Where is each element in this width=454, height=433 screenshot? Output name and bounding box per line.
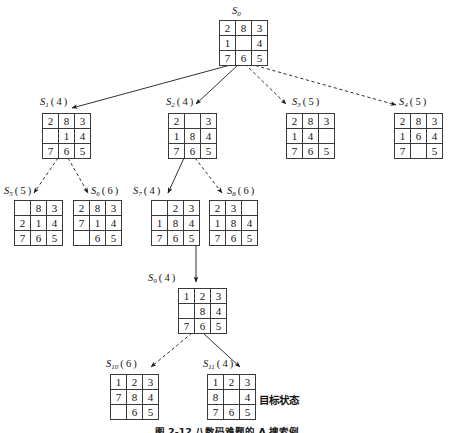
puzzle-cell: 3: [184, 201, 200, 216]
puzzle-grid: 83214765: [14, 200, 63, 246]
puzzle-node-s7[interactable]: 23184765: [151, 200, 200, 246]
puzzle-cell: 8: [31, 201, 47, 216]
puzzle-cell: 6: [127, 405, 143, 420]
puzzle-node-s6[interactable]: 28371465: [73, 200, 122, 246]
puzzle-row: 765: [43, 144, 91, 159]
puzzle-cell: 6: [195, 319, 211, 334]
puzzle-node-s9[interactable]: 12384765: [178, 288, 227, 334]
puzzle-cell: 3: [252, 21, 268, 36]
puzzle-cell: 7: [208, 405, 224, 420]
puzzle-cell: 7: [169, 144, 185, 159]
puzzle-cell: 3: [47, 201, 63, 216]
puzzle-node-s10[interactable]: 12378465: [110, 374, 159, 420]
puzzle-row: 84: [179, 304, 227, 319]
puzzle-node-s2[interactable]: 23184765: [168, 113, 217, 159]
puzzle-cell: 7: [74, 216, 90, 231]
puzzle-node-s3[interactable]: 28314765: [286, 113, 335, 159]
puzzle-cell: 7: [210, 231, 226, 246]
puzzle-cell: 7: [152, 231, 168, 246]
puzzle-cell: [236, 36, 252, 51]
puzzle-row: 23: [210, 201, 258, 216]
puzzle-cell: [15, 201, 31, 216]
puzzle-cell: 6: [226, 231, 242, 246]
puzzle-cell: 8: [168, 216, 184, 231]
puzzle-cell: 2: [168, 201, 184, 216]
puzzle-cell: 1: [287, 129, 303, 144]
puzzle-row: 283: [395, 114, 443, 129]
puzzle-cell: 6: [59, 144, 75, 159]
puzzle-cell: 1: [152, 216, 168, 231]
puzzle-row: 65: [111, 405, 159, 420]
puzzle-cell: 5: [143, 405, 159, 420]
node-label-s4: S4 ( 5 ): [399, 97, 426, 109]
edge-s1-to-s5: [34, 158, 58, 193]
node-label-s6: S6 ( 6 ): [91, 186, 118, 198]
puzzle-node-s11[interactable]: 12384765: [207, 374, 256, 420]
puzzle-cell: 5: [427, 144, 443, 159]
puzzle-cell: 4: [211, 304, 227, 319]
puzzle-row: 123: [179, 289, 227, 304]
puzzle-node-s8[interactable]: 23184765: [209, 200, 258, 246]
puzzle-cell: 4: [242, 216, 258, 231]
puzzle-row: 123: [208, 375, 256, 390]
puzzle-cell: 8: [127, 390, 143, 405]
puzzle-row: 75: [395, 144, 443, 159]
edge-s1-to-s6: [68, 158, 88, 193]
puzzle-cell: 2: [224, 375, 240, 390]
puzzle-cell: 5: [211, 319, 227, 334]
puzzle-cell: 8: [303, 114, 319, 129]
puzzle-cell: 6: [185, 144, 201, 159]
node-label-s11: S11 ( 4 ): [203, 359, 233, 371]
puzzle-grid: 28316475: [394, 113, 443, 159]
puzzle-cell: 4: [201, 129, 217, 144]
puzzle-row: 765: [152, 231, 200, 246]
puzzle-grid: 28314765: [219, 20, 268, 66]
puzzle-cell: [185, 114, 201, 129]
puzzle-row: 14: [43, 129, 91, 144]
puzzle-cell: 6: [411, 129, 427, 144]
puzzle-cell: 6: [31, 231, 47, 246]
puzzle-cell: [224, 390, 240, 405]
puzzle-row: 164: [395, 129, 443, 144]
puzzle-cell: 1: [210, 216, 226, 231]
puzzle-node-s0[interactable]: 28314765: [219, 20, 268, 66]
puzzle-grid: 12384765: [207, 374, 256, 420]
puzzle-node-s5[interactable]: 83214765: [14, 200, 63, 246]
puzzle-cell: 4: [252, 36, 268, 51]
puzzle-cell: [43, 129, 59, 144]
puzzle-cell: 4: [143, 390, 159, 405]
puzzle-cell: 5: [319, 144, 335, 159]
puzzle-grid: 23184765: [168, 113, 217, 159]
goal-state-annotation: 目标状态: [259, 392, 299, 407]
puzzle-cell: 8: [90, 201, 106, 216]
puzzle-node-s1[interactable]: 28314765: [42, 113, 91, 159]
puzzle-cell: 7: [15, 231, 31, 246]
puzzle-cell: 5: [240, 405, 256, 420]
figure-caption: 图 2-12 八数码难题的 A 搜索例: [0, 424, 454, 433]
puzzle-row: 14: [287, 129, 335, 144]
puzzle-cell: 7: [395, 144, 411, 159]
puzzle-cell: 7: [220, 51, 236, 66]
puzzle-cell: 6: [224, 405, 240, 420]
puzzle-row: 784: [111, 390, 159, 405]
puzzle-row: 765: [15, 231, 63, 246]
puzzle-row: 765: [220, 51, 268, 66]
edge-s2-to-s7: [168, 158, 184, 193]
puzzle-cell: [411, 144, 427, 159]
puzzle-row: 765: [208, 405, 256, 420]
puzzle-cell: 2: [74, 201, 90, 216]
node-label-s3: S3 ( 5 ): [292, 97, 319, 109]
puzzle-cell: 4: [303, 129, 319, 144]
puzzle-cell: 5: [242, 231, 258, 246]
edge-s0-to-s3: [245, 64, 286, 104]
puzzle-cell: 2: [287, 114, 303, 129]
puzzle-cell: 3: [226, 201, 242, 216]
edge-s0-to-s1: [72, 64, 234, 108]
puzzle-cell: 2: [220, 21, 236, 36]
puzzle-row: 283: [74, 201, 122, 216]
puzzle-cell: 1: [395, 129, 411, 144]
puzzle-cell: 3: [211, 289, 227, 304]
puzzle-cell: 6: [168, 231, 184, 246]
puzzle-node-s4[interactable]: 28316475: [394, 113, 443, 159]
puzzle-cell: 5: [184, 231, 200, 246]
